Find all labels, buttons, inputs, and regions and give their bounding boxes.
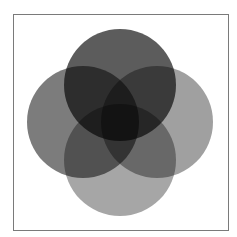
top-circle	[64, 29, 176, 141]
diagram-frame	[13, 14, 229, 231]
